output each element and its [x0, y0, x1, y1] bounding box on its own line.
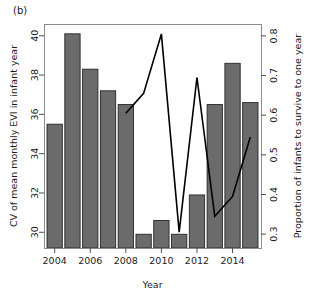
y-axis-title: CV of mean monthly EVI in infant year	[8, 45, 19, 227]
bar-2010	[154, 220, 169, 248]
bar-2005	[65, 34, 80, 248]
y2tick-label-0.5: 0.5	[269, 147, 280, 162]
bar-2009	[136, 234, 151, 248]
chart-canvas: 2004200620082010201220143032343638400.30…	[0, 0, 312, 297]
xtick-label-2006: 2006	[78, 255, 102, 266]
xtick-label-2008: 2008	[114, 255, 138, 266]
bar-2007	[100, 91, 115, 248]
ytick-label-32: 32	[30, 187, 41, 199]
ytick-label-34: 34	[30, 148, 41, 160]
xtick-label-2010: 2010	[149, 255, 173, 266]
y2tick-label-0.6: 0.6	[269, 108, 280, 123]
bar-2006	[83, 69, 98, 248]
figure-panel-b: (b) 200420062008201020122014303234363840…	[0, 0, 312, 297]
x-axis-title: Year	[141, 279, 162, 290]
xtick-label-2014: 2014	[220, 255, 244, 266]
ytick-label-36: 36	[30, 108, 41, 120]
bar-2012	[189, 195, 204, 248]
ytick-label-38: 38	[30, 69, 41, 81]
bar-2008	[118, 105, 133, 248]
ytick-label-40: 40	[30, 30, 41, 42]
y2tick-label-0.4: 0.4	[269, 187, 280, 202]
xtick-label-2012: 2012	[185, 255, 209, 266]
y2-axis-title: Proportion of infants to survive to one …	[292, 34, 303, 238]
y2tick-label-0.8: 0.8	[269, 28, 280, 43]
xtick-label-2004: 2004	[43, 255, 67, 266]
bar-2014	[225, 63, 240, 248]
y2tick-label-0.7: 0.7	[269, 68, 280, 83]
bar-2011	[172, 234, 187, 248]
y2tick-label-0.3: 0.3	[269, 227, 280, 242]
bar-2015	[243, 103, 258, 248]
ytick-label-30: 30	[30, 226, 41, 238]
bar-2004	[47, 124, 62, 248]
